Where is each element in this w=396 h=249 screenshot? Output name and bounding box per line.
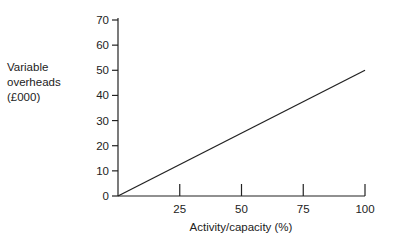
y-tick-label: 70	[96, 14, 109, 26]
x-tick-label: 75	[297, 203, 310, 215]
y-tick-label: 20	[96, 140, 109, 152]
y-tick-label: 40	[96, 89, 109, 101]
y-tick-label: 0	[103, 190, 109, 202]
chart-plot: 010203040506070 255075100 Activity/capac…	[0, 0, 396, 249]
y-tick-label: 10	[96, 165, 109, 177]
y-tick-label: 30	[96, 115, 109, 127]
series-line	[118, 70, 365, 196]
y-tick-label: 60	[96, 39, 109, 51]
x-tick-label: 50	[235, 203, 248, 215]
x-tick-label: 100	[355, 203, 374, 215]
y-tick-label: 50	[96, 64, 109, 76]
x-tick-label: 25	[173, 203, 186, 215]
x-axis-title: Activity/capacity (%)	[190, 221, 293, 233]
